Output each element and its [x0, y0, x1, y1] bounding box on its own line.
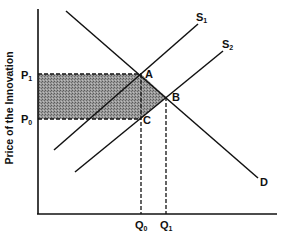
quantity-label-q1: Q1	[160, 219, 173, 232]
point-label-c: C	[143, 114, 151, 126]
price-label-p1: P1	[21, 69, 32, 82]
curve-label-d: D	[260, 176, 268, 188]
point-label-a: A	[145, 68, 153, 80]
quantity-label-q0: Q0	[135, 219, 148, 232]
curve-label-s1: S1	[196, 11, 207, 24]
point-label-b: B	[172, 91, 180, 103]
supply-demand-diagram: Price of the Innovation P1 P0 Q0 Q1 S1 S…	[0, 0, 282, 239]
curve-label-s2: S2	[222, 38, 233, 51]
price-label-p0: P0	[21, 113, 32, 126]
y-axis-label: Price of the Innovation	[3, 51, 15, 164]
